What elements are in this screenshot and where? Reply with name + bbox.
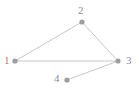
- edge-1-2: [15, 22, 82, 61]
- node-dot-1[interactable]: [12, 58, 17, 63]
- edge-2-3: [82, 22, 118, 61]
- node-dot-2[interactable]: [79, 19, 84, 24]
- node-label-1: 1: [4, 55, 10, 66]
- edge-layer: [15, 22, 118, 80]
- node-layer: [12, 19, 120, 82]
- node-label-3: 3: [126, 55, 132, 66]
- graph-canvas: [0, 0, 139, 94]
- node-dot-4[interactable]: [64, 77, 69, 82]
- node-dot-3[interactable]: [115, 58, 120, 63]
- graph-figure: 1 2 3 4: [0, 0, 139, 94]
- node-label-4: 4: [54, 73, 60, 84]
- node-label-2: 2: [78, 5, 84, 16]
- edge-4-3: [67, 61, 118, 80]
